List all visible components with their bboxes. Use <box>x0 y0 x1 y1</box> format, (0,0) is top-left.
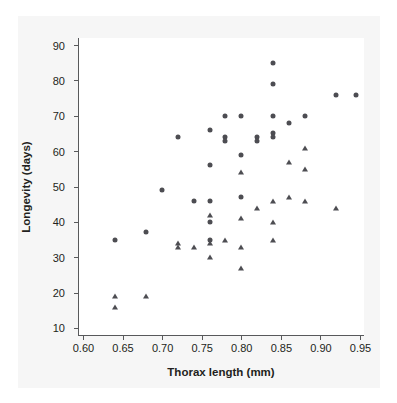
data-point-circle <box>112 237 117 242</box>
y-tick: 20 <box>74 293 79 294</box>
y-tick-label: 40 <box>53 216 65 228</box>
data-point-triangle <box>238 265 244 270</box>
y-tick-label: 60 <box>53 146 65 158</box>
x-tick-label: 0.80 <box>231 342 252 354</box>
data-point-circle <box>302 113 307 118</box>
x-tick: 0.65 <box>123 335 124 340</box>
data-point-triangle <box>333 205 339 210</box>
data-point-triangle <box>302 166 308 171</box>
y-tick: 30 <box>74 257 79 258</box>
data-point-triangle <box>222 237 228 242</box>
x-tick: 0.95 <box>360 335 361 340</box>
x-tick-label: 0.75 <box>191 342 212 354</box>
data-point-triangle <box>175 244 181 249</box>
data-point-circle <box>223 135 228 140</box>
data-point-circle <box>239 113 244 118</box>
x-tick-label: 0.70 <box>152 342 173 354</box>
data-point-circle <box>207 163 212 168</box>
data-point-triangle <box>302 198 308 203</box>
data-point-triangle <box>302 145 308 150</box>
scatter-plot-figure: Longevity (days) Thorax length (mm) 1020… <box>0 0 397 403</box>
data-point-circle <box>239 195 244 200</box>
data-point-triangle <box>112 304 118 309</box>
data-point-circle <box>270 113 275 118</box>
y-tick-label: 20 <box>53 287 65 299</box>
x-tick: 0.60 <box>83 335 84 340</box>
data-point-circle <box>255 135 260 140</box>
data-point-circle <box>270 81 275 86</box>
data-point-triangle <box>207 255 213 260</box>
y-tick: 40 <box>74 222 79 223</box>
data-point-circle <box>223 113 228 118</box>
x-tick-label: 0.60 <box>73 342 94 354</box>
data-point-circle <box>175 135 180 140</box>
data-point-triangle <box>191 244 197 249</box>
y-tick-label: 50 <box>53 181 65 193</box>
data-point-triangle <box>207 212 213 217</box>
data-point-circle <box>160 188 165 193</box>
data-point-triangle <box>238 170 244 175</box>
data-point-circle <box>354 92 359 97</box>
y-tick-label: 80 <box>53 75 65 87</box>
data-point-circle <box>270 135 275 140</box>
data-point-circle <box>223 138 228 143</box>
data-point-circle <box>207 127 212 132</box>
y-tick: 90 <box>74 45 79 46</box>
data-point-circle <box>286 120 291 125</box>
data-point-triangle <box>112 294 118 299</box>
data-point-triangle <box>207 241 213 246</box>
y-axis-label: Longevity (days) <box>20 141 32 232</box>
data-point-circle <box>270 131 275 136</box>
data-point-triangle <box>175 241 181 246</box>
y-tick-label: 10 <box>53 322 65 334</box>
data-point-circle <box>270 60 275 65</box>
x-tick-label: 0.85 <box>271 342 292 354</box>
y-tick-label: 30 <box>53 252 65 264</box>
data-point-triangle <box>143 294 149 299</box>
x-tick-label: 0.95 <box>350 342 371 354</box>
x-tick: 0.90 <box>320 335 321 340</box>
data-point-triangle <box>270 198 276 203</box>
data-point-circle <box>207 219 212 224</box>
y-tick: 10 <box>74 328 79 329</box>
x-tick: 0.80 <box>241 335 242 340</box>
x-tick-label: 0.90 <box>310 342 331 354</box>
y-tick: 80 <box>74 80 79 81</box>
y-tick: 50 <box>74 187 79 188</box>
data-point-circle <box>207 237 212 242</box>
data-point-triangle <box>270 237 276 242</box>
data-point-triangle <box>270 219 276 224</box>
x-tick-label: 0.65 <box>112 342 133 354</box>
x-tick: 0.70 <box>162 335 163 340</box>
y-tick-label: 90 <box>53 40 65 52</box>
data-point-circle <box>144 230 149 235</box>
x-tick: 0.75 <box>202 335 203 340</box>
y-tick-label: 70 <box>53 110 65 122</box>
data-point-circle <box>255 138 260 143</box>
y-tick: 60 <box>74 151 79 152</box>
data-point-circle <box>207 198 212 203</box>
x-tick: 0.85 <box>281 335 282 340</box>
data-point-circle <box>191 198 196 203</box>
x-axis-label: Thorax length (mm) <box>167 366 274 378</box>
data-point-triangle <box>238 244 244 249</box>
data-point-triangle <box>238 216 244 221</box>
data-point-circle <box>239 152 244 157</box>
data-point-triangle <box>286 195 292 200</box>
plot-area: 102030405060708090 0.600.650.700.750.800… <box>78 38 364 336</box>
data-point-circle <box>334 92 339 97</box>
y-tick: 70 <box>74 116 79 117</box>
data-point-triangle <box>254 205 260 210</box>
data-point-triangle <box>286 159 292 164</box>
